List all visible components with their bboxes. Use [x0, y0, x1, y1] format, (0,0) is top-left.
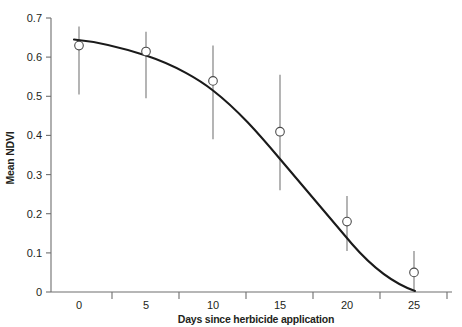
y-tick-label-1: 0.1 — [27, 247, 42, 259]
x-tick-label-3: 15 — [274, 299, 286, 311]
y-tick-label-5: 0.5 — [27, 90, 42, 102]
data-point-1 — [142, 47, 151, 56]
chart-canvas: 0 0.1 0.2 0.3 0.4 0.5 0.6 0.7 0 5 10 15 … — [0, 0, 462, 327]
y-tick-label-6: 0.6 — [27, 51, 42, 63]
y-tick-label-0: 0 — [36, 286, 42, 298]
y-tick-label-4: 0.4 — [27, 129, 42, 141]
y-tick-label-2: 0.2 — [27, 208, 42, 220]
y-tick-label-7: 0.7 — [27, 12, 42, 24]
x-tick-label-2: 10 — [207, 299, 219, 311]
y-tick-label-3: 0.3 — [27, 169, 42, 181]
data-point-3 — [276, 127, 285, 136]
data-point-5 — [410, 268, 419, 277]
chart-background — [0, 0, 462, 327]
x-tick-label-1: 5 — [143, 299, 149, 311]
x-axis-title: Days since herbicide application — [178, 313, 334, 325]
data-point-2 — [209, 77, 218, 86]
x-tick-label-5: 25 — [408, 299, 420, 311]
x-tick-label-4: 20 — [341, 299, 353, 311]
data-point-0 — [75, 41, 84, 50]
ndvi-decline-chart: 0 0.1 0.2 0.3 0.4 0.5 0.6 0.7 0 5 10 15 … — [0, 0, 462, 327]
y-axis-title: Mean NDVI — [4, 131, 16, 184]
data-point-4 — [343, 217, 352, 226]
x-tick-label-0: 0 — [76, 299, 82, 311]
